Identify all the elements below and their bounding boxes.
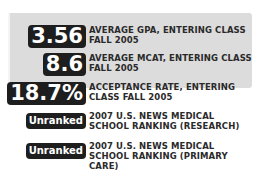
- stats-panel: 3.56 AVERAGE GPA, ENTERING CLASS FALL 20…: [8, 13, 252, 88]
- gpa-value: 3.56: [28, 25, 86, 48]
- mcat-label: AVERAGE MCAT, ENTERING CLASS FALL 2005: [89, 53, 254, 73]
- research-rank-value: Unranked: [26, 113, 86, 129]
- stat-row-research-rank: Unranked 2007 U.S. NEWS MEDICAL SCHOOL R…: [10, 109, 252, 135]
- research-rank-label: 2007 U.S. NEWS MEDICAL SCHOOL RANKING (R…: [89, 111, 254, 131]
- stat-row-acceptance: 18.7% ACCEPTANCE RATE, ENTERING CLASS FA…: [10, 80, 252, 106]
- primary-care-rank-label: 2007 U.S. NEWS MEDICAL SCHOOL RANKING (P…: [89, 141, 254, 171]
- stat-row-gpa: 3.56 AVERAGE GPA, ENTERING CLASS FALL 20…: [10, 23, 252, 49]
- primary-care-rank-value: Unranked: [26, 143, 86, 159]
- acceptance-value: 18.7%: [7, 82, 86, 105]
- stat-row-mcat: 8.6 AVERAGE MCAT, ENTERING CLASS FALL 20…: [10, 51, 252, 77]
- stat-row-primary-care-rank: Unranked 2007 U.S. NEWS MEDICAL SCHOOL R…: [10, 139, 252, 165]
- gpa-label: AVERAGE GPA, ENTERING CLASS FALL 2005: [89, 25, 254, 45]
- mcat-value: 8.6: [43, 53, 86, 76]
- acceptance-label: ACCEPTANCE RATE, ENTERING CLASS FALL 200…: [89, 82, 254, 102]
